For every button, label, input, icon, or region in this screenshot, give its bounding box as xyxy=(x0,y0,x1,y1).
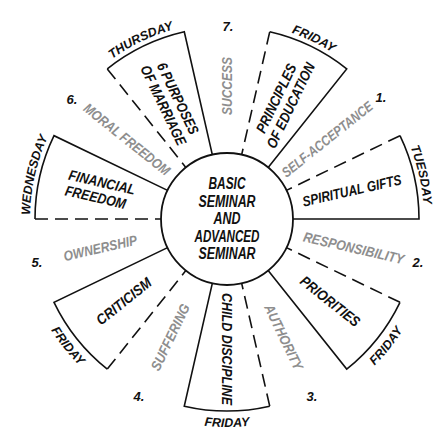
principle-5: OWNERSHIP 5. xyxy=(32,232,140,270)
principle-number: 1. xyxy=(376,90,387,105)
topic-segment-child-discipline: CHILD DISCIPLINE FRIDAY xyxy=(184,283,269,430)
principle-label: RESPONSIBILITY xyxy=(302,229,407,268)
principle-number: 3. xyxy=(307,389,318,404)
principle-label: SUFFERING xyxy=(147,301,193,373)
day-label-text: TUESDAY xyxy=(408,143,435,206)
day-label-text: THURSDAY xyxy=(106,18,176,61)
principle-number: 6. xyxy=(67,92,78,107)
topic-label: SPIRITUAL GIFTS xyxy=(301,171,403,209)
center-hub: BASIC SEMINAR AND ADVANCED SEMINAR xyxy=(161,153,293,285)
hub-label-line-5: SEMINAR xyxy=(199,245,256,262)
day-label: THURSDAY xyxy=(106,18,176,61)
day-label: FRIDAY xyxy=(204,415,252,430)
topic-label: CHILD DISCIPLINE xyxy=(219,293,235,406)
principle-3: AUTHORITY 3. xyxy=(261,301,318,404)
principle-number: 2. xyxy=(412,255,424,270)
principle-label: OWNERSHIP xyxy=(62,232,139,264)
hub-label-line-4: ADVANCED xyxy=(194,228,260,245)
principle-number: 4. xyxy=(133,389,145,404)
principle-number: 5. xyxy=(32,255,43,270)
seminar-wheel-diagram: SPIRITUAL GIFTS TUESDAY PRIORITIES FRIDA… xyxy=(0,0,445,442)
segment-dashed-edge xyxy=(242,283,270,406)
day-label: FRIDAY xyxy=(290,22,339,56)
principle-label: SUCCESS xyxy=(219,56,235,115)
principle-number: 7. xyxy=(223,19,234,34)
hub-label-line-3: AND xyxy=(213,210,241,227)
principle-4: SUFFERING 4. xyxy=(133,301,193,403)
day-label-text: FRIDAY xyxy=(204,415,252,430)
hub-label-line-1: BASIC xyxy=(209,175,246,192)
day-label: TUESDAY xyxy=(408,143,435,206)
topic-label: PRIORITIES xyxy=(297,273,363,331)
segment-dashed-edge xyxy=(242,32,270,155)
day-label-text: FRIDAY xyxy=(290,22,339,56)
principle-7: SUCCESS 7. xyxy=(219,19,235,116)
hub-label-line-2: SEMINAR xyxy=(199,193,256,210)
